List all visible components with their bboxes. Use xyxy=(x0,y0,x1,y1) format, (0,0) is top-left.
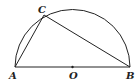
label-b: B xyxy=(126,71,134,81)
geometry-diagram: A O B C xyxy=(0,0,139,82)
center-point-o xyxy=(71,66,73,68)
label-c: C xyxy=(38,5,46,15)
label-a: A xyxy=(9,71,17,81)
semicircle-arc xyxy=(15,9,130,67)
chord-cb xyxy=(44,15,130,67)
chord-ac xyxy=(15,15,44,67)
label-o: O xyxy=(69,71,78,81)
